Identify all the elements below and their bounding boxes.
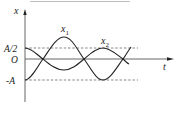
y-axis-label: x <box>13 5 19 16</box>
t-axis-label: t <box>163 61 166 72</box>
curve-label-x1-sub: 1 <box>65 29 69 37</box>
curve-label-x2: x2 <box>100 35 109 49</box>
curve-label-x1: x1 <box>60 23 69 37</box>
tick-label-origin: O <box>11 55 18 65</box>
tick-label-half-A: A/2 <box>3 44 17 54</box>
oscillation-diagram: x t A/2 O -A x1 x2 <box>0 0 178 115</box>
y-axis-arrow-icon <box>23 9 26 15</box>
tick-label-neg-A: -A <box>6 76 15 86</box>
curve-label-x2-sub: 2 <box>105 41 109 49</box>
t-axis-arrow-icon <box>167 57 174 61</box>
